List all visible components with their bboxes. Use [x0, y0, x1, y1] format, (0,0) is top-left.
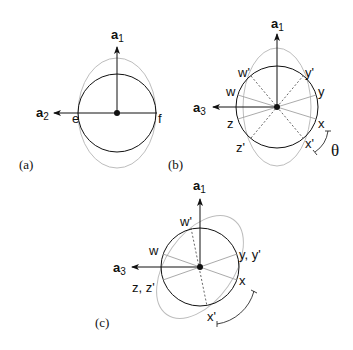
label-w: w: [225, 84, 236, 99]
center-dot: [274, 104, 280, 110]
center-dot: [114, 110, 120, 116]
label-z-zprime: z, z': [132, 280, 155, 295]
label-x-prime: x': [305, 136, 314, 151]
label-a1: a1: [193, 178, 206, 195]
label-w-prime: w': [179, 214, 192, 229]
label-a1: a1: [271, 16, 284, 33]
angle-arc: [217, 291, 254, 324]
label-f: f: [158, 111, 162, 126]
label-e: e: [72, 111, 79, 126]
angle-arc: [315, 131, 328, 152]
label-a2: a2: [36, 105, 49, 122]
diagram-canvas: a1 a2 e f (a) a1 a3 w' y' w y z x z' x' …: [0, 0, 353, 350]
label-a3: a3: [193, 100, 206, 117]
caption-a: (a): [19, 157, 33, 172]
label-z-prime: z': [236, 140, 245, 155]
label-x: x: [239, 273, 246, 288]
label-y-yprime: y, y': [239, 247, 261, 262]
label-z: z: [227, 116, 234, 131]
label-y-prime: y': [305, 65, 314, 80]
panel-a: a1 a2 e f (a): [19, 27, 162, 172]
label-w-prime: w': [237, 65, 250, 80]
label-w: w: [148, 243, 159, 258]
angle-tick: [251, 290, 257, 293]
center-dot: [197, 264, 203, 270]
label-a3: a3: [113, 260, 126, 277]
label-theta: θ: [331, 141, 339, 160]
label-a1: a1: [111, 27, 124, 44]
label-x: x: [318, 116, 325, 131]
panel-b: a1 a3 w' y' w y z x z' x' θ (b): [168, 16, 339, 172]
panel-c: a1 a3 w' w y, y' z, z' x x' (c): [95, 178, 261, 334]
label-y: y: [318, 84, 325, 99]
caption-c: (c): [95, 315, 109, 330]
caption-b: (b): [168, 157, 183, 172]
label-x-prime: x': [207, 309, 216, 324]
